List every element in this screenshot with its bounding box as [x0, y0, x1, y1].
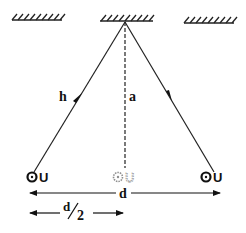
- incident-ray-arrow-icon: [73, 93, 82, 103]
- left-ceiling-hatch: [12, 14, 66, 20]
- center-ceiling-hatch: [100, 15, 154, 21]
- reflected-ray-arrow-icon: [166, 90, 172, 101]
- label-d-half-denominator: 2: [77, 208, 84, 223]
- left-object: U: [28, 170, 49, 185]
- left-object-letter: U: [39, 170, 48, 185]
- right-object: U: [202, 170, 223, 185]
- dimension-d: d: [30, 186, 220, 201]
- center-object-faded: U: [114, 170, 135, 185]
- label-d: d: [119, 186, 127, 201]
- right-object-letter: U: [213, 170, 222, 185]
- center-object-letter: U: [125, 170, 134, 185]
- reflection-diagram: h a U U U d d 2: [0, 0, 246, 233]
- label-h: h: [59, 89, 67, 104]
- label-d-half-numerator: d: [63, 199, 71, 214]
- reflected-ray: [125, 22, 214, 172]
- label-a: a: [129, 89, 136, 104]
- dimension-d-half: d 2: [30, 199, 123, 223]
- right-ceiling-hatch: [184, 17, 237, 23]
